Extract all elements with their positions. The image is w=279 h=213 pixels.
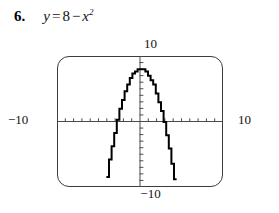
calculator-screen [57,56,223,187]
parabola-curve [106,69,176,179]
window-label-top: 10 [0,36,279,52]
equation-exponent: 2 [89,7,94,17]
problem-header: 6. y=8−x2 [14,8,94,34]
equation: y=8−x2 [43,8,93,25]
equation-lhs: y [43,8,50,24]
equation-constant: 8 [62,8,70,24]
equation-equals: = [50,8,62,24]
window-label-bottom: −10 [0,186,279,202]
calculator-plot-area [57,56,223,187]
window-label-right: 10 [238,112,251,128]
parabola-plot [57,56,223,187]
window-label-left: −10 [8,112,28,128]
equation-minus: − [70,8,82,24]
problem-number: 6. [14,8,25,25]
problem-figure: 6. y=8−x2 10 −10 10 −10 [0,0,279,213]
